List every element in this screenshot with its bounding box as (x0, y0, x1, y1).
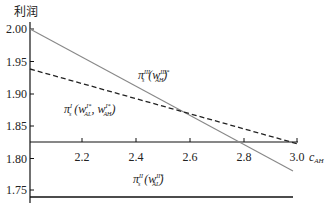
x-tick-labels: 2.2 2.4 2.6 2.8 3.0 (75, 150, 305, 164)
x-axis-title: cAH (309, 150, 325, 165)
svg-text:2.4: 2.4 (129, 150, 144, 164)
svg-text:1.75: 1.75 (6, 183, 27, 197)
svg-text:2.8: 2.8 (237, 150, 252, 164)
series-I-label: πIs(wI*AL, wI*AH) (64, 102, 115, 117)
series-II-label: πIIs(wII*AL) (133, 172, 163, 187)
series-III-label: πIIIs(wIII*AH) (138, 68, 169, 83)
y-tick-labels: 2.00 1.95 1.90 1.85 1.80 1.75 (6, 22, 27, 197)
svg-text:2.00: 2.00 (6, 22, 27, 36)
svg-text:1.95: 1.95 (6, 55, 27, 69)
svg-text:2.6: 2.6 (183, 150, 198, 164)
svg-text:2.2: 2.2 (75, 150, 90, 164)
svg-text:1.90: 1.90 (6, 87, 27, 101)
svg-text:1.85: 1.85 (6, 119, 27, 133)
y-axis-title: 利润 (14, 5, 38, 19)
profit-chart: 2.00 1.95 1.90 1.85 1.80 1.75 利润 2.2 2.4… (0, 0, 331, 212)
svg-text:3.0: 3.0 (290, 150, 305, 164)
svg-text:1.80: 1.80 (6, 152, 27, 166)
series-III-line (30, 29, 293, 171)
